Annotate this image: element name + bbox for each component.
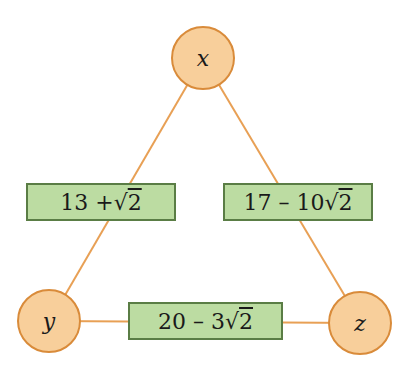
sqrt-symbol: √ <box>114 190 128 215</box>
node-y: y <box>17 289 81 353</box>
edge-label-x-y: 13 + √2 <box>26 183 176 221</box>
sqrt-symbol: √ <box>324 190 338 215</box>
label-prefix: 13 + <box>60 190 113 215</box>
label-radicand: 2 <box>128 190 142 215</box>
edge-label-x-z: 17 – 10 √2 <box>223 183 373 221</box>
triangle-diagram: x y z 13 + √2 17 – 10 √2 20 – 3 √2 <box>0 0 407 371</box>
label-radicand: 2 <box>239 309 253 334</box>
node-x: x <box>171 26 235 90</box>
node-z: z <box>328 291 392 355</box>
node-x-label: x <box>197 46 209 71</box>
node-y-label: y <box>43 309 55 334</box>
label-prefix: 17 – 10 <box>243 190 324 215</box>
node-z-label: z <box>354 311 366 336</box>
label-prefix: 20 – 3 <box>158 309 225 334</box>
edge-label-y-z: 20 – 3 √2 <box>128 302 283 340</box>
sqrt-symbol: √ <box>225 309 239 334</box>
label-radicand: 2 <box>339 190 353 215</box>
